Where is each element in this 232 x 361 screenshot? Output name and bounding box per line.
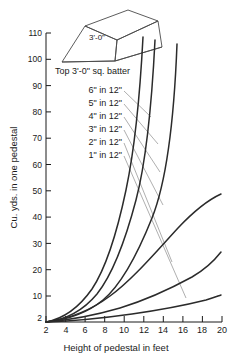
legend-item-5in12: 5" in 12": [52, 98, 122, 108]
curve-2in12: [46, 252, 221, 322]
x-tick-label: 14: [154, 325, 172, 335]
pedestal-left-face: [62, 26, 117, 62]
y-axis-ticks: [46, 33, 51, 296]
y-tick-label: 50: [22, 186, 42, 196]
legend-leader-lines: [124, 91, 186, 298]
x-tick-label: 10: [115, 325, 133, 335]
axis-lines: [46, 33, 222, 322]
pedestal-illustration: [62, 10, 162, 62]
y-tick-label: 60: [22, 160, 42, 170]
x-tick-label: 4: [57, 325, 75, 335]
curve-5in12: [46, 40, 155, 322]
x-tick-label: 20: [213, 325, 231, 335]
origin-label: 2: [26, 313, 42, 323]
y-tick-label: 100: [22, 54, 42, 64]
x-tick-label: 2: [37, 325, 55, 335]
curve-6in12: [46, 37, 143, 322]
legend-item-6in12: 6" in 12": [52, 85, 122, 95]
legend-item-4in12: 4" in 12": [52, 111, 122, 121]
x-tick-label: 18: [193, 325, 211, 335]
y-tick-label: 110: [22, 28, 42, 38]
leader-5in12: [124, 104, 158, 144]
legend-item-3in12: 3" in 12": [52, 124, 122, 134]
x-tick-label: 8: [96, 325, 114, 335]
data-curves: [46, 37, 221, 322]
chart-figure: 110 100 90 80 70 60 50 40 30 20 10 2 4 6…: [0, 0, 232, 361]
y-tick-label: 80: [22, 107, 42, 117]
legend-item-2in12: 2" in 12": [52, 137, 122, 147]
pedestal-top-dimension-label: 3'-0": [89, 33, 105, 42]
y-tick-label: 20: [22, 265, 42, 275]
y-tick-label: 90: [22, 81, 42, 91]
x-axis-title: Height of pedestal in feet: [0, 342, 232, 353]
y-axis-title: Cu. yds. in one pedestal: [8, 113, 19, 243]
y-tick-label: 70: [22, 133, 42, 143]
pedestal-base-edge: [62, 47, 162, 62]
y-tick-label: 10: [22, 291, 42, 301]
x-tick-label: 16: [174, 325, 192, 335]
legend-item-1in12: 1" in 12": [52, 150, 122, 160]
x-tick-label: 6: [76, 325, 94, 335]
y-tick-label: 30: [22, 239, 42, 249]
x-tick-label: 12: [135, 325, 153, 335]
y-tick-label: 40: [22, 212, 42, 222]
batter-caption: Top 3'-0" sq. batter: [55, 66, 130, 76]
curve-1in12: [46, 295, 221, 322]
